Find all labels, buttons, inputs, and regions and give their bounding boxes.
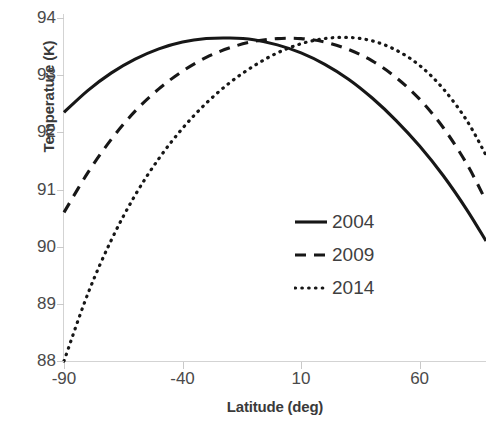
legend-label: 2009: [332, 245, 374, 264]
y-tick-mark: [57, 304, 64, 305]
legend-swatch-solid-icon: [294, 215, 328, 229]
chart-container: Temperature (K) 88899091929394 -90-40106…: [0, 0, 486, 423]
chart-legend: 200420092014: [294, 205, 414, 304]
legend-label: 2004: [332, 212, 374, 231]
legend-swatch-dotted-icon: [294, 281, 328, 295]
legend-item-2014[interactable]: 2014: [294, 271, 414, 304]
legend-label: 2014: [332, 278, 374, 297]
legend-item-2004[interactable]: 2004: [294, 205, 414, 238]
y-tick-mark: [57, 18, 64, 19]
y-tick-mark: [57, 132, 64, 133]
series-line-2014: [64, 37, 486, 361]
y-tick-mark: [57, 190, 64, 191]
legend-swatch-dashed-icon: [294, 248, 328, 262]
legend-item-2009[interactable]: 2009: [294, 238, 414, 271]
y-tick-mark: [57, 75, 64, 76]
y-tick-mark: [57, 247, 64, 248]
y-tick-mark: [57, 361, 64, 362]
